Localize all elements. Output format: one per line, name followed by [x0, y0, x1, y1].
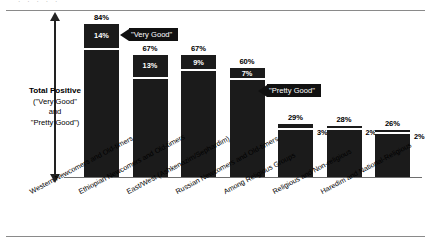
bar-chart-plot: Total Positive ("Very Good" and "Pretty …: [0, 0, 431, 249]
bar-5-total-label: 29%: [270, 113, 321, 122]
bar-3-total-label: 67%: [173, 44, 224, 53]
bar-2-very-good-segment: 13%: [133, 55, 168, 79]
bar-7-very-good-label: 2%: [414, 132, 425, 141]
bar-1-total-label: 84%: [76, 13, 127, 22]
callout-very-good: "Very Good": [120, 28, 178, 41]
bar-1-very-good-segment: 14%: [84, 24, 119, 50]
callout-arrow-icon: [258, 85, 267, 97]
bar-5-very-good-segment: [278, 124, 313, 129]
callout-very-good-label: "Very Good": [129, 28, 178, 41]
bar-4-total-label: 60%: [222, 57, 273, 66]
callout-pretty-good-label: "Pretty Good": [267, 84, 321, 97]
callout-arrow-icon: [120, 29, 129, 41]
bar-7-total-label: 26%: [367, 119, 418, 128]
bar-2-total-label: 67%: [125, 44, 176, 53]
bar-7-very-good-segment: [375, 130, 410, 134]
bar-6-total-label: 28%: [319, 115, 370, 124]
bar-6-very-good-segment: [327, 126, 362, 130]
bar-4-very-good-segment: 7%: [230, 68, 265, 81]
chart-page: · · · · · Total Positive ("Very Good" an…: [0, 0, 431, 249]
callout-pretty-good: "Pretty Good": [258, 84, 321, 97]
bar-3-very-good-segment: 9%: [181, 55, 216, 71]
